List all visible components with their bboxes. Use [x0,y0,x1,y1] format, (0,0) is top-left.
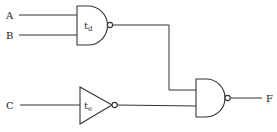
input-label-b: B [6,30,13,41]
inversion-bubble [112,102,117,107]
wire-gate2-to-gate3 [117,105,196,106]
inverter-gate-te: te [80,87,117,124]
output-label-f: F [266,93,273,104]
nand-gate-output [196,79,230,117]
nand-gate-td: td [77,6,113,45]
inversion-bubble [107,22,112,27]
input-label-a: A [5,10,14,21]
inversion-bubble [225,95,230,100]
logic-diagram: A B C td te F [0,0,277,132]
input-label-c: C [6,100,14,111]
wire-gate1-to-gate3 [113,25,196,90]
